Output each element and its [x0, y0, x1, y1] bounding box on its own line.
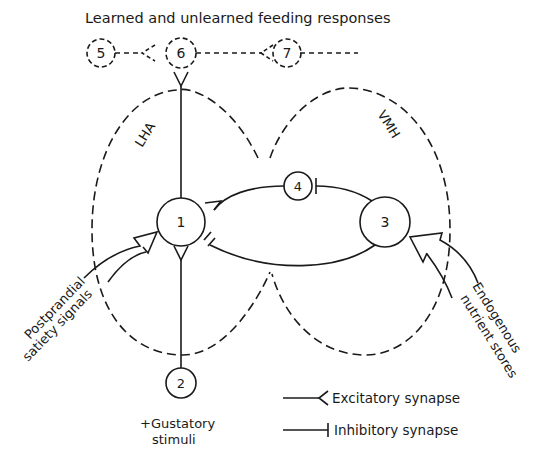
node-3-label: 3 [381, 214, 390, 230]
satiety-signals-arrow [84, 232, 157, 282]
node-4-label: 4 [294, 179, 302, 194]
gustatory-label-line2: stimuli [152, 432, 196, 447]
excitatory-synapse-icon [142, 45, 155, 61]
excitatory-synapse-icon [174, 246, 188, 260]
excitatory-synapse-icon [319, 391, 328, 405]
excitatory-synapse-icon [174, 72, 188, 86]
node-2-label: 2 [177, 376, 185, 391]
node-1-label: 1 [177, 214, 186, 230]
legend-excitatory-label: Excitatory synapse [332, 390, 460, 406]
nutrient-stores-arrow [410, 233, 478, 298]
vmh-label: VMH [374, 108, 403, 141]
node-6-label: 6 [177, 45, 186, 61]
link-3-to-1 [210, 245, 375, 266]
node-5-label: 5 [97, 45, 106, 61]
gustatory-label-line1: +Gustatory [140, 416, 215, 431]
inhibitory-synapse-icon [204, 232, 211, 240]
excitatory-synapse-icon [261, 45, 273, 61]
legend-inhibitory-label: Inhibitory synapse [334, 422, 458, 438]
link-4-to-1 [214, 186, 284, 210]
lha-label: LHA [132, 120, 159, 150]
node-7-label: 7 [283, 45, 292, 61]
link-3-to-4 [316, 186, 372, 201]
inhibitory-synapse-icon [208, 238, 215, 246]
feeding-circuit-diagram: Learned and unlearned feeding responses … [0, 0, 552, 469]
diagram-title: Learned and unlearned feeding responses [85, 10, 391, 26]
